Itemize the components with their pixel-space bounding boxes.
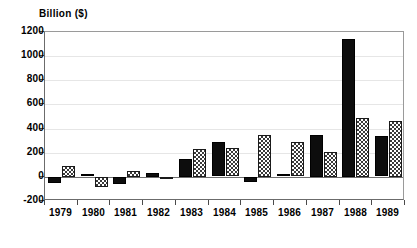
- bar-series-2-1980: [95, 177, 108, 187]
- bar-series-1-1988: [342, 39, 355, 177]
- x-axis-tick: [306, 200, 307, 205]
- y-axis-tick-label: 800: [27, 73, 44, 84]
- x-axis-tick: [240, 200, 241, 205]
- bar-series-2-1982: [160, 177, 173, 179]
- y-axis-title: Billion ($): [39, 8, 88, 19]
- x-axis-tick: [273, 200, 274, 205]
- bar-series-1-1981: [113, 177, 126, 184]
- bar-series-1-1979: [48, 177, 61, 183]
- bar-series-1-1980: [81, 174, 94, 176]
- x-axis-tick: [44, 200, 45, 205]
- x-axis-tick: [142, 200, 143, 205]
- x-axis-tick: [339, 200, 340, 205]
- bar-series-2-1985: [258, 135, 271, 177]
- y-axis-tick-label: 1000: [21, 49, 44, 60]
- bar-series-2-1987: [324, 152, 337, 177]
- y-axis-tick-label: -200: [23, 194, 44, 205]
- x-axis-tick: [175, 200, 176, 205]
- x-axis-tick: [208, 200, 209, 205]
- bar-series-2-1989: [389, 121, 402, 177]
- plot-area: [44, 31, 404, 200]
- x-axis-tick-label: 1987: [306, 207, 339, 218]
- bar-series-1-1982: [146, 173, 159, 177]
- bar-series-1-1983: [179, 159, 192, 177]
- bar-series-2-1981: [127, 171, 140, 177]
- x-axis-tick-label: 1985: [240, 207, 273, 218]
- y-axis-tick-label: 400: [27, 122, 44, 133]
- bar-series-2-1979: [62, 166, 75, 177]
- x-axis-tick-label: 1982: [142, 207, 175, 218]
- bar-series-1-1987: [310, 135, 323, 177]
- bar-series-2-1988: [356, 118, 369, 177]
- x-axis-tick: [404, 200, 405, 205]
- x-axis-tick-label: 1983: [175, 207, 208, 218]
- x-axis-tick-label: 1980: [77, 207, 110, 218]
- bar-series-1-1986: [277, 174, 290, 176]
- x-axis-tick: [371, 200, 372, 205]
- x-axis-tick: [77, 200, 78, 205]
- bar-series-2-1986: [291, 142, 304, 176]
- bar-series-1-1985: [244, 177, 257, 182]
- bar-series-1-1989: [375, 136, 388, 176]
- x-axis-tick-label: 1981: [109, 207, 142, 218]
- x-axis-tick-label: 1988: [339, 207, 372, 218]
- x-axis-tick: [109, 200, 110, 205]
- y-axis-tick-label: 600: [27, 97, 44, 108]
- x-axis-tick-label: 1984: [208, 207, 241, 218]
- y-axis-tick-label: 200: [27, 146, 44, 157]
- bar-series-2-1983: [193, 149, 206, 177]
- x-axis-tick-label: 1986: [273, 207, 306, 218]
- x-axis-tick-label: 1989: [371, 207, 404, 218]
- x-axis-tick-label: 1979: [44, 207, 77, 218]
- bar-chart-figure: Billion ($) -200020040060080010001200 19…: [0, 0, 417, 248]
- bar-series-1-1984: [212, 142, 225, 176]
- y-axis-tick-label: 1200: [21, 25, 44, 36]
- bar-series-2-1984: [226, 148, 239, 176]
